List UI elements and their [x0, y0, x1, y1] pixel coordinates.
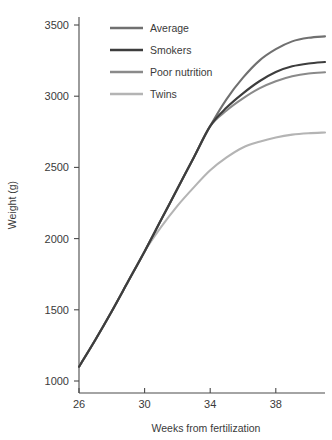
series-lines	[79, 36, 325, 366]
chart-legend: AverageSmokersPoor nutritionTwins	[110, 22, 213, 100]
x-tick-label-38: 38	[270, 398, 282, 410]
y-tick-label-3500: 3500	[45, 19, 69, 31]
x-tick-label-30: 30	[138, 398, 150, 410]
legend-label-twins: Twins	[150, 88, 177, 100]
series-line-poor-nutrition	[79, 72, 325, 366]
x-tick-label-34: 34	[204, 398, 216, 410]
series-line-twins	[79, 133, 325, 367]
x-axis-title: Weeks from fertilization	[152, 422, 261, 434]
legend-label-average: Average	[150, 22, 189, 34]
chart-canvas: 100015002000250030003500 26303438 Averag…	[0, 0, 332, 440]
y-tick-label-2500: 2500	[45, 161, 69, 173]
y-axis-tick-labels: 100015002000250030003500	[45, 19, 69, 387]
series-line-average	[79, 36, 325, 366]
x-tick-label-26: 26	[73, 398, 85, 410]
series-line-smokers	[79, 62, 325, 367]
y-tick-label-3000: 3000	[45, 90, 69, 102]
x-axis-tick-labels: 26303438	[73, 398, 282, 410]
y-axis-title: Weight (g)	[6, 181, 18, 229]
y-tick-label-2000: 2000	[45, 233, 69, 245]
y-tick-label-1000: 1000	[45, 375, 69, 387]
y-tick-label-1500: 1500	[45, 304, 69, 316]
legend-label-poor-nutrition: Poor nutrition	[150, 66, 213, 78]
legend-label-smokers: Smokers	[150, 44, 191, 56]
x-axis-tick-marks	[79, 388, 276, 393]
y-axis-tick-marks	[74, 25, 79, 381]
weight-growth-chart: 100015002000250030003500 26303438 Averag…	[0, 0, 332, 440]
